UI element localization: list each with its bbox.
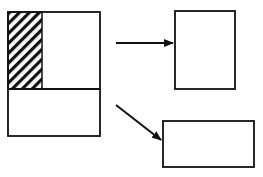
arrow-to-bottom-box <box>116 105 161 140</box>
source-block <box>8 12 100 136</box>
target-bottom-rect <box>163 121 254 167</box>
diagram-canvas <box>0 0 263 177</box>
target-top-rect <box>175 11 235 89</box>
hatched-region <box>8 12 42 89</box>
